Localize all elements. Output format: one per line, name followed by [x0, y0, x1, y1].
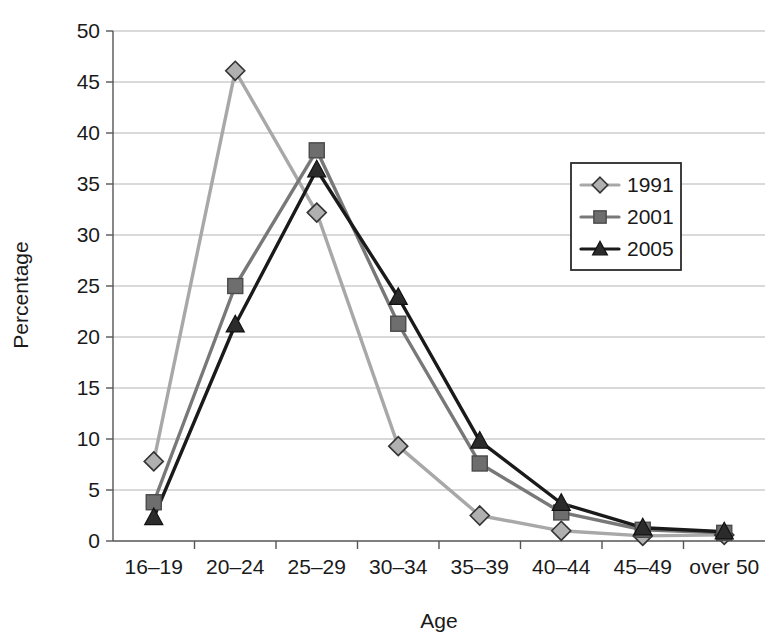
data-point-2005-40–44: [552, 494, 570, 511]
x-tick-label: 40–44: [532, 555, 591, 578]
x-tick-label: 35–39: [451, 555, 509, 578]
y-tick-label: 10: [77, 427, 100, 450]
data-point-2005-20–24: [226, 315, 244, 332]
data-point-2001-20–24: [228, 279, 243, 294]
y-axis-title: Percentage: [9, 241, 32, 348]
y-tick-label: 30: [77, 223, 100, 246]
line-chart: 16–1920–2425–2930–3435–3940–4445–49over …: [0, 0, 784, 641]
y-tick-label: 40: [77, 121, 100, 144]
series-1991: [154, 71, 725, 536]
data-point-2001-30–34: [391, 316, 406, 331]
data-point-1991-16–19: [144, 452, 163, 471]
x-axis-title: Age: [420, 609, 457, 632]
data-point-2005-16–19: [145, 508, 163, 525]
series-group: [144, 61, 734, 545]
y-tick-label: 20: [77, 325, 100, 348]
x-tick-labels: 16–1920–2425–2930–3435–3940–4445–49over …: [125, 555, 760, 578]
data-point-2001-35–39: [472, 456, 487, 471]
x-tick-label: 25–29: [288, 555, 346, 578]
legend: 199120012005: [571, 163, 681, 270]
y-tick-label: 15: [77, 376, 100, 399]
x-tick-label: 45–49: [614, 555, 672, 578]
data-point-2005-35–39: [471, 432, 489, 449]
data-point-1991-20–24: [226, 61, 245, 80]
y-tick-label: 50: [77, 19, 100, 42]
series-line-1991: [154, 71, 725, 536]
legend-label-2001: 2001: [627, 205, 674, 228]
x-tick-label: 16–19: [125, 555, 183, 578]
data-point-1991-25–29: [307, 203, 326, 222]
data-point-1991-40–44: [552, 521, 571, 540]
chart-page: 16–1920–2425–2930–3435–3940–4445–49over …: [0, 0, 784, 641]
y-tick-label: 25: [77, 274, 100, 297]
y-tick-label: 5: [88, 478, 100, 501]
legend-label-1991: 1991: [627, 173, 674, 196]
x-tick-label: over 50: [689, 555, 759, 578]
x-tick-label: 20–24: [206, 555, 265, 578]
x-axis-ticks: [195, 541, 684, 549]
legend-label-2005: 2005: [627, 237, 674, 260]
y-tick-label: 0: [88, 529, 100, 552]
legend-marker-2001: [594, 211, 606, 223]
x-tick-label: 30–34: [369, 555, 428, 578]
y-tick-labels: 05101520253035404550: [77, 19, 100, 552]
y-tick-label: 35: [77, 172, 100, 195]
y-axis-ticks: [106, 31, 113, 541]
data-point-2001-25–29: [309, 143, 324, 158]
y-tick-label: 45: [77, 70, 100, 93]
series-markers-1991: [144, 61, 734, 545]
